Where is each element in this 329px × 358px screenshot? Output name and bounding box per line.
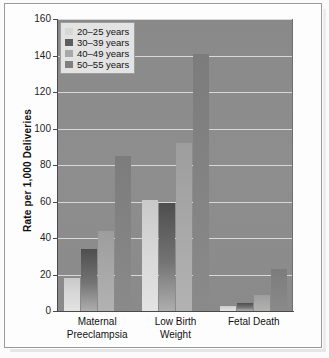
y-tick-label: 80 — [5, 160, 51, 170]
y-tick-label: 40 — [5, 233, 51, 243]
y-tick-mark — [53, 129, 57, 130]
legend-item[interactable]: 30–39 years — [65, 37, 129, 48]
legend-label: 20–25 years — [77, 26, 129, 37]
bar — [142, 200, 158, 311]
legend-item[interactable]: 40–49 years — [65, 48, 129, 59]
bar — [254, 295, 270, 311]
y-tick-label: 160 — [5, 14, 51, 24]
bar — [220, 306, 236, 311]
legend[interactable]: 20–25 years30–39 years40–49 years50–55 y… — [60, 22, 135, 74]
y-tick-label: 120 — [5, 87, 51, 97]
bar — [193, 54, 209, 311]
gridline — [58, 92, 292, 93]
y-tick-label: 60 — [5, 197, 51, 207]
y-axis-tick-labels: 020406080100120140160 — [0, 0, 51, 358]
legend-item[interactable]: 50–55 years — [65, 59, 129, 70]
legend-swatch-icon — [65, 39, 73, 46]
legend-swatch-icon — [65, 61, 73, 68]
gridline — [58, 19, 292, 20]
y-tick-label: 20 — [5, 270, 51, 280]
x-category-label: Fetal Death — [200, 316, 308, 329]
bar — [64, 278, 80, 311]
y-tick-mark — [53, 19, 57, 20]
gridline — [58, 202, 292, 203]
bar — [98, 231, 114, 311]
y-tick-label: 100 — [5, 124, 51, 134]
y-tick-label: 0 — [5, 306, 51, 316]
y-tick-mark — [53, 238, 57, 239]
bar — [81, 249, 97, 311]
legend-label: 30–39 years — [77, 37, 129, 48]
legend-swatch-icon — [65, 50, 73, 57]
bar — [115, 156, 131, 311]
y-tick-mark — [53, 92, 57, 93]
figure: Rate per 1,000 Deliveries 02040608010012… — [0, 0, 329, 358]
gridline — [58, 165, 292, 166]
x-category-label-line: Fetal Death — [200, 316, 308, 329]
gridline — [58, 238, 292, 239]
gridline — [58, 129, 292, 130]
y-tick-mark — [53, 56, 57, 57]
y-tick-label: 140 — [5, 51, 51, 61]
legend-item[interactable]: 20–25 years — [65, 26, 129, 37]
x-axis-line — [57, 311, 294, 312]
legend-swatch-icon — [65, 28, 73, 35]
legend-label: 50–55 years — [77, 59, 129, 70]
x-category-label-line: Weight — [121, 329, 229, 342]
y-tick-mark — [53, 275, 57, 276]
y-tick-mark — [53, 311, 57, 312]
y-tick-mark — [53, 202, 57, 203]
legend-label: 40–49 years — [77, 48, 129, 59]
bar — [237, 303, 253, 311]
figure-shadow-right — [323, 9, 326, 349]
bar — [176, 143, 192, 311]
figure-shadow-bottom — [10, 349, 326, 352]
bar — [159, 203, 175, 311]
bar — [271, 269, 287, 311]
y-tick-mark — [53, 165, 57, 166]
